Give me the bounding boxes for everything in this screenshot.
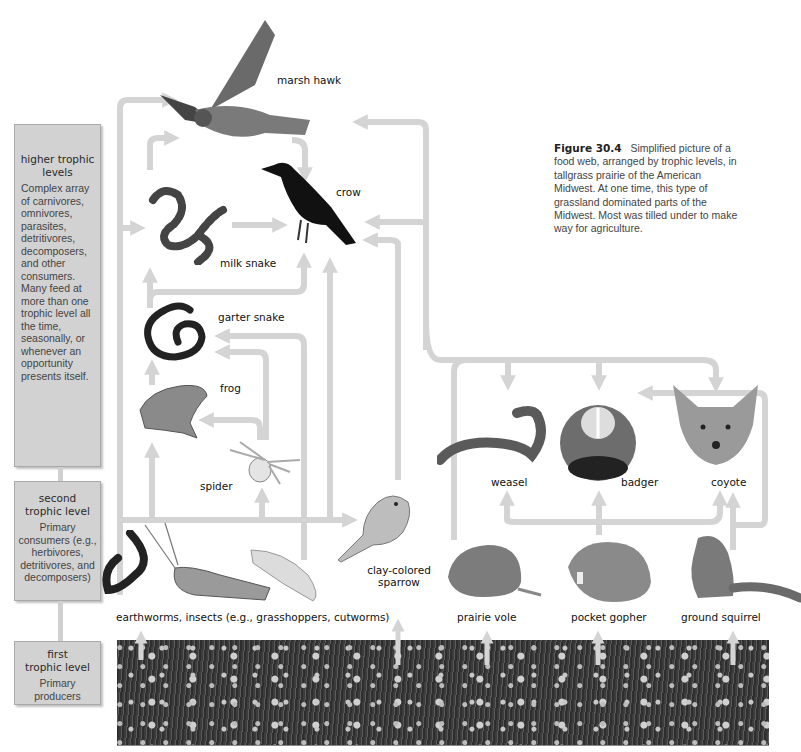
label-badger: badger <box>621 476 658 488</box>
label-clay-colored-sparrow: clay-colored sparrow <box>363 564 435 588</box>
badger-icon <box>558 398 638 483</box>
spider-icon <box>225 432 305 487</box>
food-web-arrows <box>0 0 801 752</box>
label-crow: crow <box>336 186 361 198</box>
label-ground-squirrel: ground squirrel <box>681 611 761 623</box>
label-sparrow-line2: sparrow <box>363 576 435 588</box>
label-sparrow-line1: clay-colored <box>363 564 435 576</box>
label-spider: spider <box>200 480 233 492</box>
figure-number: Figure 30.4 <box>554 142 622 154</box>
figure-caption: Figure 30.4 Simplified picture of a food… <box>554 142 744 236</box>
crow-icon <box>256 155 361 250</box>
weasel-icon <box>437 405 557 475</box>
ground-squirrel-icon <box>678 528 801 603</box>
clay-colored-sparrow-icon <box>333 490 423 565</box>
label-weasel: weasel <box>491 476 527 488</box>
cutworm-icon <box>243 545 323 605</box>
label-prairie-vole: prairie vole <box>457 611 516 623</box>
label-marsh-hawk: marsh hawk <box>277 74 341 86</box>
label-frog: frog <box>220 382 241 394</box>
coyote-icon <box>668 385 763 470</box>
garter-snake-icon <box>140 302 215 364</box>
label-milk-snake: milk snake <box>220 257 276 269</box>
figure-caption-text: Simplified picture of a food web, arrang… <box>554 142 737 234</box>
frog-icon <box>135 378 213 443</box>
label-pocket-gopher: pocket gopher <box>571 611 647 623</box>
label-garter-snake: garter snake <box>218 311 284 323</box>
milk-snake-icon <box>143 180 233 265</box>
label-coyote: coyote <box>711 476 746 488</box>
label-earthworms-insects: earthworms, insects (e.g., grasshoppers,… <box>116 611 389 623</box>
prairie-vole-icon <box>443 537 543 602</box>
pocket-gopher-icon <box>563 537 653 607</box>
